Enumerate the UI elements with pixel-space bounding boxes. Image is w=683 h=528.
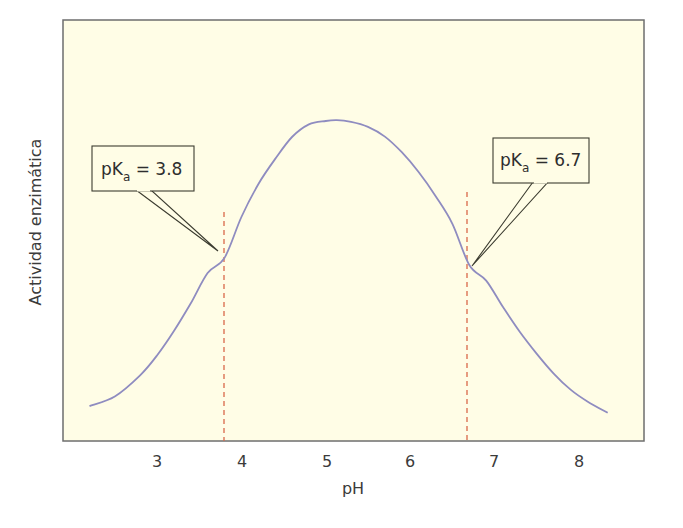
callout-left-sub: a xyxy=(123,170,130,184)
enzyme-activity-chart: pKa = 3.8 pKa = 6.7 3 4 5 6 7 8 pH Activ… xyxy=(0,0,683,528)
x-tick-4: 4 xyxy=(237,452,247,471)
x-tick-8: 8 xyxy=(574,452,584,471)
callout-left-main: pK xyxy=(101,159,124,179)
y-axis-title: Actividad enzimática xyxy=(26,139,45,306)
x-axis-ticks: 3 4 5 6 7 8 xyxy=(152,452,584,471)
x-axis-title: pH xyxy=(342,479,364,498)
callout-right-main: pK xyxy=(500,150,523,170)
callout-left-rest: = 3.8 xyxy=(130,159,182,179)
callout-right-sub: a xyxy=(522,161,529,175)
x-tick-6: 6 xyxy=(405,452,415,471)
callout-right-rest: = 6.7 xyxy=(529,150,581,170)
x-tick-3: 3 xyxy=(152,452,162,471)
x-tick-5: 5 xyxy=(322,452,332,471)
x-tick-7: 7 xyxy=(489,452,499,471)
